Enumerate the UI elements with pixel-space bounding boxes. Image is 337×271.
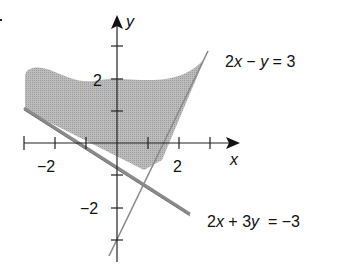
x-tick-label-2: 2 bbox=[173, 158, 182, 175]
equation-label-line1: 2x − y = 3 bbox=[225, 53, 295, 70]
x-axis-label: x bbox=[229, 151, 239, 168]
y-tick-label-2: 2 bbox=[93, 72, 102, 89]
y-axis-label: y bbox=[125, 13, 135, 30]
stray-mark bbox=[0, 19, 2, 21]
y-tick-label-neg2: −2 bbox=[80, 200, 98, 217]
equation-label-line2: 2x + 3y = −3 bbox=[207, 213, 300, 230]
graph: y x 2 −2 −2 2 2x − y = 3 2x + 3y = −3 bbox=[0, 0, 337, 271]
x-tick-label-neg2: −2 bbox=[37, 158, 55, 175]
